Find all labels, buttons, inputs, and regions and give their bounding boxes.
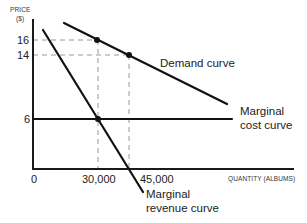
x-tick-0: 0: [31, 173, 37, 185]
point-demand-14: [126, 52, 132, 58]
x-tick-45000: 45,000: [140, 173, 174, 185]
mc-curve-label-line2: cost curve: [240, 119, 292, 131]
point-demand-16: [94, 37, 100, 43]
y-tick-16: 16: [17, 34, 29, 46]
x-tick-30000: 30,000: [82, 173, 116, 185]
mc-curve-label-line1: Marginal: [240, 105, 284, 117]
y-tick-6: 6: [24, 113, 30, 125]
demand-curve-label: Demand curve: [160, 57, 235, 69]
monopoly-pricing-chart: PRICE ($) 16 14 6 0 30,000 45,000 QUANTI…: [0, 0, 307, 223]
mr-curve-label-line1: Marginal: [146, 188, 190, 200]
guide-lines: [33, 40, 129, 169]
y-tick-14: 14: [17, 49, 29, 61]
x-axis-label: QUANTITY (ALBUMS): [228, 175, 295, 183]
point-mr-mc: [95, 116, 101, 122]
y-axis-label-line1: PRICE: [10, 6, 31, 13]
y-axis-label-line2: ($): [16, 15, 24, 23]
mr-curve-label-line2: revenue curve: [146, 202, 219, 214]
